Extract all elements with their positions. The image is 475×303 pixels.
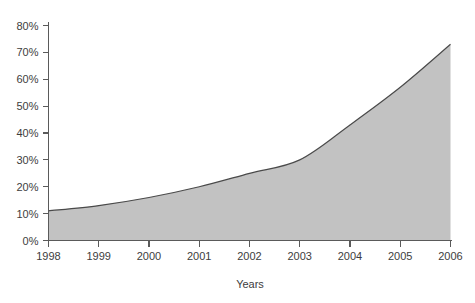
y-axis-tick-label: 10%: [16, 208, 38, 220]
chart-canvas: 0%10%20%30%40%50%60%70%80% 1998199920002…: [0, 0, 475, 303]
y-axis-tick-labels: 0%10%20%30%40%50%60%70%80%: [16, 20, 38, 247]
y-axis-tick-label: 20%: [16, 181, 38, 193]
y-axis-tick-label: 80%: [16, 20, 38, 32]
y-axis-tick-label: 50%: [16, 100, 38, 112]
x-axis-title: Years: [236, 278, 264, 290]
y-axis-tick-label: 60%: [16, 73, 38, 85]
x-axis-tick-label: 2006: [438, 250, 462, 262]
x-axis-tick-label: 2004: [338, 250, 362, 262]
x-axis-tick-label: 2001: [187, 250, 211, 262]
x-axis-tick-label: 2003: [288, 250, 312, 262]
x-axis-tick-label: 1999: [87, 250, 111, 262]
area-chart: 0%10%20%30%40%50%60%70%80% 1998199920002…: [0, 0, 475, 303]
x-axis-tick-label: 2002: [237, 250, 261, 262]
x-axis-tick-labels: 199819992000200120022003200420052006: [36, 250, 462, 262]
x-axis-tick-label: 1998: [36, 250, 60, 262]
y-axis-tick-label: 40%: [16, 127, 38, 139]
y-axis-tick-label: 0%: [23, 235, 39, 247]
x-axis-tick-label: 2000: [137, 250, 161, 262]
x-axis-tick-label: 2005: [388, 250, 412, 262]
y-axis-tick-label: 70%: [16, 46, 38, 58]
y-axis-tick-label: 30%: [16, 154, 38, 166]
